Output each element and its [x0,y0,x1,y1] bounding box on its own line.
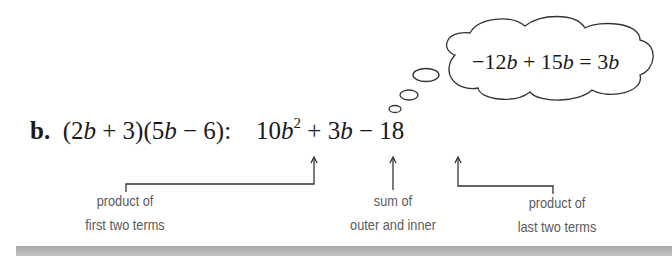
arrow-first-product [126,158,314,192]
bubble-large [413,69,439,82]
bottom-divider-bar [16,246,672,256]
caption-line: product of [57,189,193,213]
caption-line: sum of [325,189,461,213]
bubble-small [389,106,401,113]
plus-operator: + [307,117,321,144]
result-first-term: 10b2 [256,117,301,144]
result-last-term: 18 [379,117,404,144]
thought-bubble-text: −12b + 15b = 3b [472,48,619,76]
result-middle-term: 3b [328,117,353,144]
caption-first-product: product of first two terms [57,189,193,237]
polynomial-expression: b. (2b + 3)(5b − 6): 10b2 + 3b − 18 [30,116,404,146]
caption-line: outer and inner [325,213,461,237]
factored-expression: (2b + 3)(5b − 6): [63,117,231,144]
caption-line: first two terms [57,213,193,237]
arrow-last-product [458,158,553,194]
caption-last-product: product of last two terms [489,191,625,239]
caption-line: last two terms [489,215,625,239]
caption-sum-outer-inner: sum of outer and inner [325,189,461,237]
bubble-medium [400,90,418,100]
minus-operator: − [359,117,373,144]
caption-line: product of [489,191,625,215]
problem-label: b. [30,117,50,144]
